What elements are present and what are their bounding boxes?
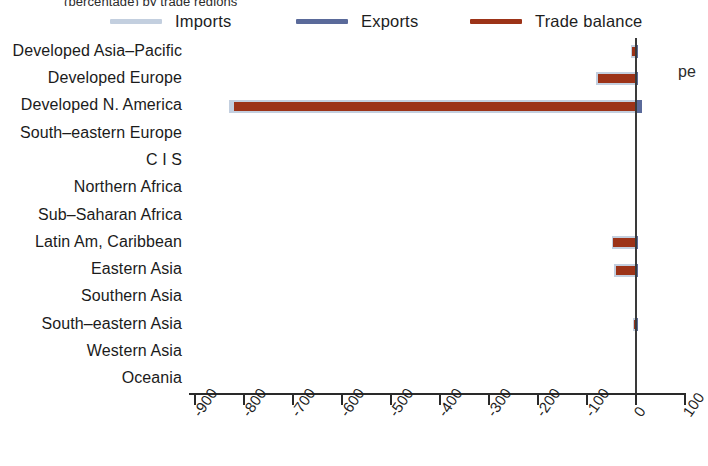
category-label: Developed N. America <box>0 96 182 114</box>
legend-swatch-exports <box>296 19 348 24</box>
x-axis-tick-label: -700 <box>287 385 319 420</box>
category-label: Developed Europe <box>0 69 182 87</box>
x-axis-tick-label: -500 <box>385 385 417 420</box>
x-axis-tick-label: -900 <box>189 385 221 420</box>
bar-trade-balance <box>616 266 636 275</box>
category-label: Sub–Saharan Africa <box>0 206 182 224</box>
legend-item-exports: Exports <box>296 12 418 34</box>
bar-trade-balance <box>234 102 636 111</box>
x-axis-tick-label: 0 <box>630 403 649 420</box>
clipped-right-note: pe <box>678 63 697 85</box>
legend-item-trade-balance: Trade balance <box>470 12 642 34</box>
category-label: Latin Am, Caribbean <box>0 233 182 251</box>
category-label: Eastern Asia <box>0 260 182 278</box>
category-label: C I S <box>0 151 182 169</box>
x-axis-tick-label: -600 <box>336 385 368 420</box>
x-axis-tick-label: -200 <box>532 385 564 420</box>
x-axis-tick-label: -300 <box>483 385 515 420</box>
x-axis-tick-label: -800 <box>238 385 270 420</box>
x-axis-tick-label: -100 <box>581 385 613 420</box>
zero-reference-line <box>635 38 637 394</box>
category-label: South–eastern Asia <box>0 315 182 333</box>
category-label: Developed Asia–Pacific <box>0 42 182 60</box>
category-label: Oceania <box>0 369 182 387</box>
category-label: South–eastern Europe <box>0 124 182 142</box>
category-label: Northern Africa <box>0 178 182 196</box>
chart-legend: Imports Exports Trade balance <box>0 12 697 34</box>
bar-trade-balance <box>598 74 636 83</box>
legend-label-exports: Exports <box>361 12 418 31</box>
clipped-header-text: (percentage) by trade regions <box>64 0 624 6</box>
category-label: Western Asia <box>0 342 182 360</box>
x-axis-tick-label: -400 <box>434 385 466 420</box>
legend-label-trade-balance: Trade balance <box>535 12 642 31</box>
legend-item-imports: Imports <box>110 12 231 34</box>
legend-swatch-trade-balance <box>470 19 522 24</box>
legend-swatch-imports <box>110 19 162 24</box>
category-label: Southern Asia <box>0 287 182 305</box>
bar-trade-balance <box>613 238 636 247</box>
legend-label-imports: Imports <box>175 12 231 31</box>
